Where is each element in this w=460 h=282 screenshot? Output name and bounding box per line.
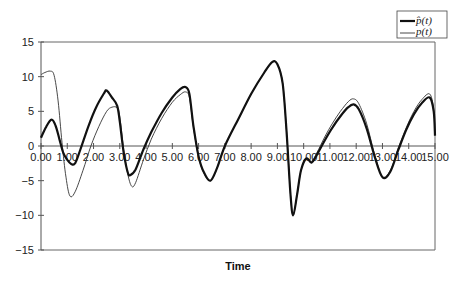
y-tick-label: −5 — [21, 175, 34, 187]
y-tick-label: 5 — [28, 105, 34, 117]
y-tick-label: −15 — [15, 244, 34, 256]
y-tick-label: 15 — [22, 36, 34, 48]
y-tick-label: 10 — [22, 71, 34, 83]
x-axis-label: Time — [225, 260, 250, 272]
legend-label-p: p(t) — [415, 25, 432, 38]
legend: p̂(t) p(t) — [397, 11, 447, 38]
y-axis-ticks: 151050−5−10−15 — [15, 36, 44, 256]
plot-area — [41, 42, 435, 250]
x-tick-label: 8.00 — [240, 151, 261, 163]
x-tick-label: 7.00 — [214, 151, 235, 163]
series-p-hat-line — [41, 61, 435, 215]
x-tick-label: 11.00 — [317, 151, 344, 163]
x-tick-label: 14.00 — [395, 151, 423, 163]
series-p-line — [41, 61, 435, 215]
x-tick-label: 15.00 — [421, 151, 449, 163]
y-tick-label: −10 — [15, 209, 34, 221]
x-tick-label: 12.00 — [342, 151, 370, 163]
series-layer — [41, 61, 435, 215]
x-tick-label: 9.00 — [267, 151, 288, 163]
x-tick-label: 0.00 — [30, 151, 51, 163]
x-tick-label: 5.00 — [162, 151, 183, 163]
line-chart: 151050−5−10−15 0.001.002.003.004.005.006… — [0, 0, 460, 282]
x-tick-label: 3.00 — [109, 151, 130, 163]
